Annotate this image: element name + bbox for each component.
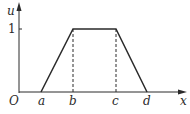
x-axis-label: x <box>180 95 187 107</box>
y-axis-label: u <box>7 5 15 17</box>
origin-label: O <box>9 95 19 107</box>
x-point-d: d <box>143 95 151 107</box>
x-point-a: a <box>38 95 45 107</box>
membership-curve <box>41 29 147 92</box>
x-point-b: b <box>69 95 77 107</box>
x-point-c: c <box>112 95 119 107</box>
trapezoid-diagram <box>0 0 190 114</box>
y-tick-label: 1 <box>8 23 16 35</box>
y-axis-arrow-icon <box>17 2 22 11</box>
